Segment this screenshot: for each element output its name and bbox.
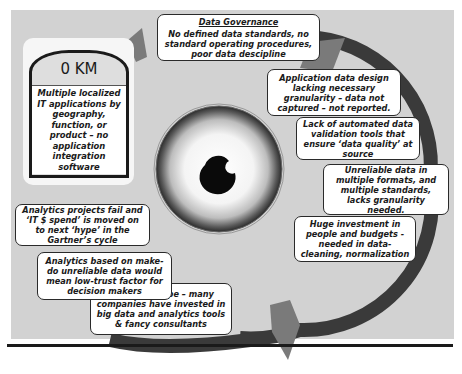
step-validation-tools: Lack of automated data validation tools … [296,117,420,160]
step-title: Data Governance [162,17,315,27]
step-text: Huge investment in people and budgets - … [299,219,411,259]
step-make-do-analytics: Analytics based on make-do unreliable da… [37,252,172,300]
step-unreliable-data: Unreliable data in multiple formats, and… [323,164,449,215]
step-text: Unreliable data in multiple formats, and… [328,165,444,215]
step-text: Lack of automated data validation tools … [301,119,415,159]
milestone-stone: 0 KM Multiple localized IT applications … [29,50,129,178]
milestone-description: Multiple localized IT applications by ge… [32,86,126,174]
step-data-governance: Data Governance No defined data standard… [157,14,320,61]
step-text: Analytics based on make-do unreliable da… [42,256,167,296]
step-text: Application data design lacking necessar… [272,73,396,113]
step-text: No defined data standards, no standard o… [162,29,315,59]
bottom-divider [7,344,453,347]
eye-icon [154,104,284,234]
step-huge-investment: Huge investment in people and budgets - … [294,216,416,262]
step-projects-fail: Analytics projects fail and ‘IT $ spend’… [15,204,150,246]
milestone-label: 0 KM [32,53,126,86]
step-text: Analytics projects fail and ‘IT $ spend’… [20,205,145,245]
arrowhead-bottom-icon [270,300,300,360]
step-app-data-design: Application data design lacking necessar… [267,69,401,116]
